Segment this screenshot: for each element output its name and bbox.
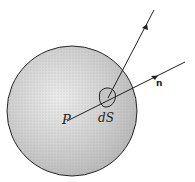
sphere <box>7 46 137 176</box>
normal-label: n <box>156 78 162 88</box>
point-label: P <box>62 112 71 127</box>
diagram: P dS n <box>0 0 195 182</box>
sphere-diagram <box>0 0 195 182</box>
arrow-icon <box>142 24 148 30</box>
surface-element-label: dS <box>98 111 114 125</box>
